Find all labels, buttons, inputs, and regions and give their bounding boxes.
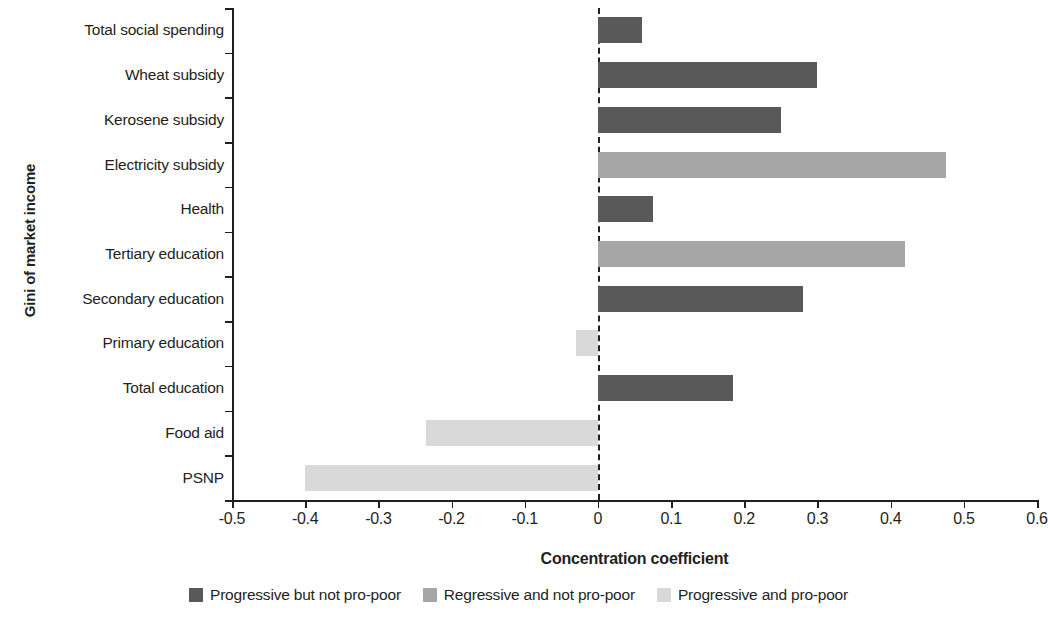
- chart-legend: Progressive but not pro-poorRegressive a…: [0, 586, 1037, 604]
- category-label: Total social spending: [24, 23, 224, 39]
- category-label: Tertiary education: [24, 246, 224, 262]
- bar: [598, 62, 818, 88]
- category-label: PSNP: [24, 470, 224, 486]
- bar: [598, 286, 803, 312]
- category-label: Total education: [24, 380, 224, 396]
- legend-swatch-icon: [657, 588, 671, 602]
- category-label: Secondary education: [24, 291, 224, 307]
- plot-area: [232, 8, 1037, 500]
- legend-swatch-icon: [423, 588, 437, 602]
- bar: [598, 196, 653, 222]
- y-axis-tick: [225, 187, 232, 189]
- legend-label: Regressive and not pro-poor: [444, 586, 635, 604]
- y-axis-tick: [225, 366, 232, 368]
- bar: [426, 420, 598, 446]
- y-axis-tick: [225, 53, 232, 55]
- x-axis-tick-label: 0.6: [1026, 510, 1047, 528]
- bar: [598, 241, 905, 267]
- x-axis-tick: [378, 500, 380, 508]
- category-label: Food aid: [24, 425, 224, 441]
- y-axis-tick: [225, 500, 232, 502]
- x-axis-tick-label: 0: [594, 510, 603, 528]
- legend-item[interactable]: Progressive and pro-poor: [657, 586, 848, 604]
- category-label: Primary education: [24, 336, 224, 352]
- legend-swatch-icon: [189, 588, 203, 602]
- x-axis-tick-label: -0.3: [365, 510, 391, 528]
- category-label-column: Total social spendingWheat subsidyKerose…: [24, 8, 224, 500]
- category-label: Kerosene subsidy: [24, 112, 224, 128]
- x-axis-tick: [817, 500, 819, 508]
- bar: [598, 152, 946, 178]
- category-label: Wheat subsidy: [24, 67, 224, 83]
- y-axis-tick: [225, 142, 232, 144]
- x-axis-tick: [744, 500, 746, 508]
- x-axis-tick: [1037, 500, 1039, 508]
- x-axis-tick: [305, 500, 307, 508]
- category-label: Electricity subsidy: [24, 157, 224, 173]
- y-axis-tick: [225, 8, 232, 10]
- bar: [598, 107, 781, 133]
- y-axis-tick: [225, 321, 232, 323]
- y-axis-tick: [225, 411, 232, 413]
- x-axis-title: Concentration coefficient: [232, 550, 1037, 568]
- x-axis-tick-label: 0.2: [734, 510, 755, 528]
- legend-item[interactable]: Progressive but not pro-poor: [189, 586, 401, 604]
- category-label: Health: [24, 202, 224, 218]
- legend-item[interactable]: Regressive and not pro-poor: [423, 586, 635, 604]
- x-axis-tick-label: -0.5: [219, 510, 245, 528]
- bar: [576, 330, 598, 356]
- x-axis-tick: [525, 500, 527, 508]
- x-axis-tick-label: -0.2: [438, 510, 464, 528]
- x-axis-tick-label: 0.1: [660, 510, 681, 528]
- x-axis-tick: [232, 500, 234, 508]
- y-axis-tick: [225, 97, 232, 99]
- y-axis-tick: [225, 232, 232, 234]
- x-axis-tick-label: 0.4: [880, 510, 901, 528]
- x-axis-tick-label: 0.5: [953, 510, 974, 528]
- legend-label: Progressive and pro-poor: [678, 586, 848, 604]
- bar: [598, 375, 733, 401]
- y-axis-line: [232, 8, 234, 500]
- x-axis-tick-label: 0.3: [807, 510, 828, 528]
- x-axis-tick: [891, 500, 893, 508]
- x-axis-tick: [598, 500, 600, 508]
- y-axis-tick: [225, 455, 232, 457]
- y-axis-tick: [225, 276, 232, 278]
- legend-label: Progressive but not pro-poor: [210, 586, 401, 604]
- x-axis-tick-label: -0.4: [292, 510, 318, 528]
- x-axis-tick: [452, 500, 454, 508]
- bar: [305, 465, 598, 491]
- bar: [598, 17, 642, 43]
- x-axis-tick: [671, 500, 673, 508]
- x-axis-tick: [964, 500, 966, 508]
- x-axis-line: [232, 500, 1037, 502]
- x-axis-tick-label: -0.1: [512, 510, 538, 528]
